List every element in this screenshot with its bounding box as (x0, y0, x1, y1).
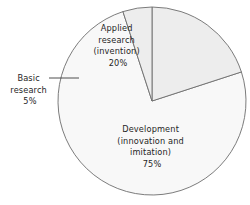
pie-chart-svg: Applied research (invention) 20% Develop… (0, 0, 250, 205)
development-label-line3: imitation) (130, 147, 171, 157)
applied-research-label-line2: research (98, 35, 135, 45)
applied-research-label-line3: (invention) (93, 46, 139, 56)
development-value: 75% (143, 159, 162, 169)
applied-research-value: 20% (109, 58, 128, 68)
applied-research-label-line1: Applied (101, 23, 133, 33)
basic-research-label-line2: research (10, 85, 47, 95)
development-label-line2: (innovation and (117, 136, 184, 146)
development-label-line1: Development (122, 124, 179, 134)
basic-research-value: 5% (23, 96, 36, 106)
basic-research-label-line1: Basic (17, 73, 39, 83)
pie-chart: Applied research (invention) 20% Develop… (0, 0, 250, 205)
basic-research-label: Basic research 5% (10, 73, 49, 106)
